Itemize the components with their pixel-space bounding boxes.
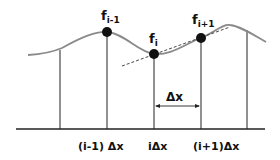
tick-label-i-minus-1: (i-1) Δx — [78, 141, 123, 152]
sample-point — [102, 27, 112, 37]
tick-label-i-plus-1: (i+1)Δx — [193, 141, 239, 152]
label-f-i: fi — [149, 32, 158, 48]
label-f-i-minus-1: fi-1 — [101, 9, 120, 25]
label-f-i-plus-1: fi+1 — [192, 13, 215, 29]
sample-point — [149, 49, 159, 59]
diagram-canvas — [0, 0, 280, 160]
finite-difference-diagram: fi-1 fi fi+1 Δx (i-1) Δx iΔx (i+1)Δx — [0, 0, 280, 160]
function-curve — [28, 25, 266, 55]
arrow-head-icon — [155, 104, 160, 108]
sample-point — [196, 33, 206, 43]
spacing-label: Δx — [166, 91, 183, 103]
tick-label-i: iΔx — [148, 141, 167, 152]
arrow-head-icon — [195, 104, 200, 108]
